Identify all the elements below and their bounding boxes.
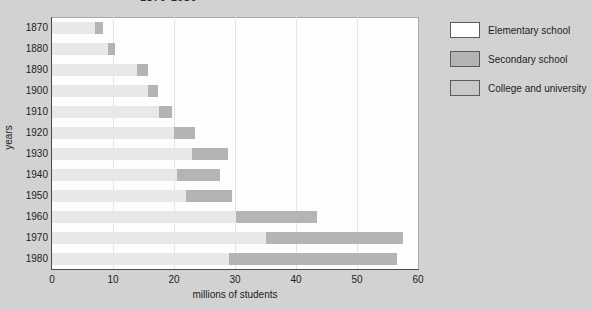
y-axis-tick-label: 1950 xyxy=(4,191,48,201)
bar-segment xyxy=(52,85,148,97)
bar-segment xyxy=(52,148,192,160)
y-axis-tick-label: 1980 xyxy=(4,254,48,264)
bar-segment xyxy=(137,64,147,76)
y-axis-tick-label: 1940 xyxy=(4,170,48,180)
bar-row xyxy=(52,106,418,118)
x-axis-tick-label: 10 xyxy=(93,274,133,285)
bar-segment xyxy=(236,211,317,223)
bar-row xyxy=(52,253,418,265)
x-axis-tick-label: 0 xyxy=(32,274,72,285)
bar-row xyxy=(52,148,418,160)
y-axis-tick-label: 1970 xyxy=(4,233,48,243)
x-axis-title: millions of students xyxy=(52,289,418,300)
bar-segment xyxy=(52,211,236,223)
x-axis-line xyxy=(52,269,419,270)
bar-row xyxy=(52,127,418,139)
bar-row xyxy=(52,85,418,97)
bar-segment xyxy=(52,43,108,55)
bar-segment xyxy=(52,127,174,139)
y-axis-tick-label: 1900 xyxy=(4,86,48,96)
y-axis-title: years xyxy=(3,116,14,160)
bar-segment xyxy=(52,106,159,118)
bar-segment xyxy=(159,106,172,118)
bar-segment xyxy=(52,190,186,202)
bar-segment xyxy=(52,22,95,34)
bar-row xyxy=(52,169,418,181)
x-axis-tick-label: 60 xyxy=(398,274,438,285)
chart-legend: Elementary schoolSecondary schoolCollege… xyxy=(450,22,590,109)
y-axis-tick-label: 1960 xyxy=(4,212,48,222)
bar-row xyxy=(52,64,418,76)
x-axis-tick-label: 40 xyxy=(276,274,316,285)
bar-segment xyxy=(108,43,115,55)
bar-segment xyxy=(192,148,227,160)
y-axis-tick-label: 1890 xyxy=(4,65,48,75)
bar-segment xyxy=(186,190,232,202)
bar-row xyxy=(52,22,418,34)
legend-swatch xyxy=(450,80,480,96)
bar-segment xyxy=(52,169,177,181)
y-axis-tick-label: 1870 xyxy=(4,23,48,33)
legend-label: Elementary school xyxy=(488,25,570,36)
x-axis-tick-label: 20 xyxy=(154,274,194,285)
bar-row xyxy=(52,43,418,55)
legend-swatch xyxy=(450,22,480,38)
legend-swatch xyxy=(450,51,480,67)
legend-label: Secondary school xyxy=(488,54,568,65)
bar-segment xyxy=(95,22,103,34)
x-axis-tick-label: 50 xyxy=(337,274,377,285)
legend-item: College and university xyxy=(450,80,590,98)
bar-segment xyxy=(52,232,266,244)
y-axis-tick-label: 1880 xyxy=(4,44,48,54)
bar-segment xyxy=(177,169,220,181)
bar-segment xyxy=(52,253,229,265)
bar-row xyxy=(52,211,418,223)
x-axis-tick-label: 30 xyxy=(215,274,255,285)
bar-row xyxy=(52,232,418,244)
bar-segment xyxy=(266,232,403,244)
bar-row xyxy=(52,190,418,202)
chart-figure: 1870-1980 187018801890190019101920193019… xyxy=(0,0,592,310)
bar-segment xyxy=(52,64,137,76)
legend-label: College and university xyxy=(488,83,586,94)
bar-segment xyxy=(229,253,397,265)
legend-item: Secondary school xyxy=(450,51,590,69)
bar-segment xyxy=(174,127,195,139)
bar-segment xyxy=(148,85,158,97)
chart-title: 1870-1980 xyxy=(140,0,340,3)
legend-item: Elementary school xyxy=(450,22,590,40)
